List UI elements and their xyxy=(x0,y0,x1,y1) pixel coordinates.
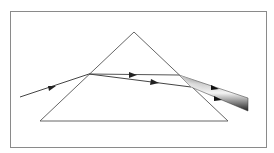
prism-diagram xyxy=(0,0,274,153)
diagram-frame xyxy=(11,12,267,148)
